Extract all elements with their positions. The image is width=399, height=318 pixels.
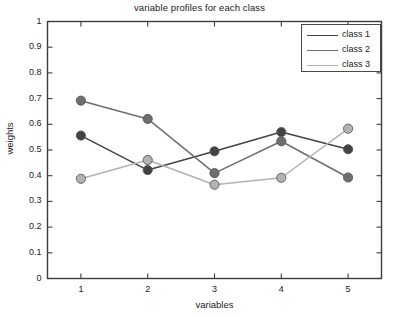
chart-figure: variable profiles for each class weights… xyxy=(0,0,399,318)
data-point-marker xyxy=(277,127,286,136)
x-tick-label: 3 xyxy=(200,284,230,294)
x-tick-label: 1 xyxy=(66,284,96,294)
x-tick-label: 5 xyxy=(333,284,363,294)
data-point-marker xyxy=(143,114,152,123)
data-point-marker xyxy=(277,173,286,182)
y-tick-label: 1 xyxy=(2,16,42,26)
data-point-marker xyxy=(210,147,219,156)
legend-line-swatch xyxy=(307,50,338,51)
legend-label: class 3 xyxy=(342,59,370,69)
legend-label: class 1 xyxy=(342,29,370,39)
legend-line-swatch xyxy=(307,35,338,36)
y-tick-label: 0.5 xyxy=(2,144,42,154)
y-tick-label: 0.1 xyxy=(2,247,42,257)
legend-item: class 2 xyxy=(302,43,382,59)
legend-item: class 1 xyxy=(302,28,382,44)
data-point-marker xyxy=(344,145,353,154)
y-tick-label: 0.3 xyxy=(2,195,42,205)
y-tick-label: 0.4 xyxy=(2,170,42,180)
data-point-marker xyxy=(143,165,152,174)
data-point-marker xyxy=(344,173,353,182)
y-tick-label: 0.7 xyxy=(2,93,42,103)
data-point-marker xyxy=(143,155,152,164)
y-tick-label: 0.2 xyxy=(2,221,42,231)
data-point-marker xyxy=(210,180,219,189)
data-point-marker xyxy=(76,96,85,105)
data-point-marker xyxy=(210,169,219,178)
y-tick-label: 0.9 xyxy=(2,41,42,51)
legend-line-swatch xyxy=(307,65,338,66)
data-point-marker xyxy=(277,137,286,146)
y-tick-label: 0.8 xyxy=(2,67,42,77)
legend: class 1class 2class 3 xyxy=(301,24,381,72)
legend-item: class 3 xyxy=(302,58,382,74)
data-point-marker xyxy=(344,124,353,133)
legend-label: class 2 xyxy=(342,44,370,54)
x-tick-label: 4 xyxy=(266,284,296,294)
y-tick-label: 0 xyxy=(2,273,42,283)
data-point-marker xyxy=(76,131,85,140)
data-point-marker xyxy=(76,174,85,183)
x-tick-label: 2 xyxy=(133,284,163,294)
y-tick-label: 0.6 xyxy=(2,118,42,128)
